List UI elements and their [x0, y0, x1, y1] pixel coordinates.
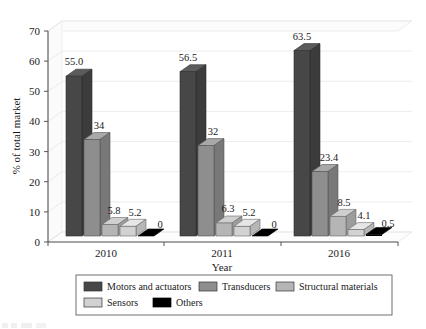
bar-transducers-2010[interactable] — [84, 133, 110, 237]
x-tick-labels: 2010 2011 2016 — [95, 247, 351, 259]
value-label: 56.5 — [179, 52, 197, 63]
value-label: 34 — [94, 120, 105, 131]
value-label: 5.8 — [107, 205, 120, 216]
value-label: 0 — [157, 219, 162, 230]
value-label: 5.2 — [242, 207, 255, 218]
x-tick-label-2011: 2011 — [211, 247, 233, 259]
x-axis — [48, 242, 398, 246]
x-tick-label-2016: 2016 — [328, 247, 351, 259]
y-tick-label: 40 — [29, 115, 41, 127]
value-label: 0 — [271, 219, 276, 230]
chart-container: 70 60 50 40 30 20 10 0 % of total market — [0, 0, 426, 329]
value-label: 6.3 — [221, 203, 234, 214]
legend-item-structural-materials[interactable]: Structural materials — [276, 281, 378, 292]
x-axis-title: Year — [212, 261, 233, 273]
legend-swatch-sensors — [84, 298, 102, 307]
y-tick-label: 70 — [29, 25, 41, 37]
y-tick-label: 60 — [29, 55, 41, 67]
page-artifact — [2, 323, 72, 328]
y-axis-title: % of total market — [10, 98, 22, 175]
value-label: 32 — [208, 126, 219, 137]
bar-chart-3d: 70 60 50 40 30 20 10 0 % of total market — [0, 0, 426, 329]
legend-label: Others — [176, 297, 203, 308]
legend-swatch-others — [153, 298, 171, 307]
legend-swatch-transducers — [199, 282, 217, 291]
value-label: 8.5 — [337, 197, 350, 208]
y-tick-label: 20 — [29, 176, 41, 188]
y-tick-labels: 70 60 50 40 30 20 10 0 — [29, 25, 41, 248]
legend-item-others[interactable]: Others — [153, 297, 203, 308]
value-label: 4.1 — [357, 210, 370, 221]
legend-swatch-motors-and-actuators — [84, 282, 102, 291]
legend-label: Transducers — [222, 281, 271, 292]
y-tick-label: 50 — [29, 85, 41, 97]
legend-swatch-structural-materials — [276, 282, 294, 291]
legend-label: Sensors — [107, 297, 138, 308]
y-tick-label: 0 — [35, 236, 41, 248]
y-tick-label: 30 — [29, 146, 41, 158]
value-label: 5.2 — [128, 207, 141, 218]
value-label: 0.5 — [381, 218, 394, 229]
legend-label: Motors and actuators — [107, 281, 192, 292]
legend-item-transducers[interactable]: Transducers — [199, 281, 271, 292]
legend-item-sensors[interactable]: Sensors — [84, 297, 138, 308]
x-tick-label-2010: 2010 — [95, 247, 118, 259]
y-tick-label: 10 — [29, 206, 41, 218]
legend-item-motors-and-actuators[interactable]: Motors and actuators — [84, 281, 192, 292]
y-axis — [44, 31, 48, 242]
legend-label: Structural materials — [299, 281, 378, 292]
value-label: 55.0 — [65, 56, 83, 67]
value-label: 23.4 — [320, 152, 339, 163]
value-label: 63.5 — [293, 31, 311, 42]
legend: Motors and actuators Transducers Structu… — [76, 275, 392, 315]
